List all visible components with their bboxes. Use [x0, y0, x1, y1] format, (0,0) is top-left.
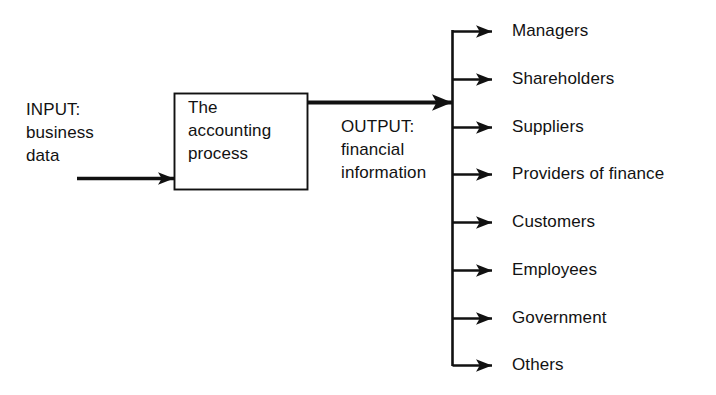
recipient-branch-arrows	[453, 32, 493, 366]
recipient-label-others: Others	[512, 355, 564, 375]
accounting-process-diagram: INPUT: business data The accounting proc…	[0, 0, 716, 395]
recipient-label-shareholders: Shareholders	[512, 69, 614, 89]
accounting-process-label: The accounting process	[188, 96, 271, 165]
output-label: OUTPUT: financial information	[341, 115, 426, 184]
input-label: INPUT: business data	[26, 98, 94, 167]
recipient-label-suppliers: Suppliers	[512, 117, 584, 137]
recipient-label-employees: Employees	[512, 260, 597, 280]
recipient-label-providers-of-finance: Providers of finance	[512, 164, 664, 184]
recipient-label-government: Government	[512, 308, 607, 328]
recipient-label-managers: Managers	[512, 21, 588, 41]
diagram-canvas	[0, 0, 716, 395]
recipient-label-customers: Customers	[512, 212, 595, 232]
